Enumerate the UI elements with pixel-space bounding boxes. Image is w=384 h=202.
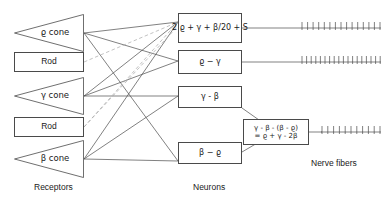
- neuron-box-2[interactable]: ϱ − γ: [178, 50, 242, 74]
- line-rho-to-n2: [84, 33, 178, 61]
- neuron-box-3[interactable]: γ - β: [178, 86, 242, 108]
- receptor-rho-cone[interactable]: ϱ cone: [14, 14, 84, 52]
- retina-neural-wiring-diagram: ϱ cone Rod γ cone Rod β cone 2 ϱ + γ + β…: [0, 0, 384, 202]
- neuron-formula-line2: = ϱ + γ - 2β: [255, 132, 298, 140]
- receptor-label: β cone: [41, 154, 70, 164]
- column-label-receptors: Receptors: [34, 182, 73, 192]
- neuron-box-5[interactable]: β − ϱ: [178, 142, 242, 164]
- fiber-bundle-1: [300, 22, 381, 30]
- neuron-formula: ϱ − γ: [199, 57, 221, 66]
- receptor-gamma-cone[interactable]: γ cone: [14, 77, 84, 115]
- receptor-label: Rod: [41, 57, 57, 67]
- dashed-rod-connections: [84, 22, 178, 127]
- receptor-rod-lower[interactable]: Rod: [14, 117, 84, 137]
- receptor-label: ϱ cone: [41, 28, 70, 38]
- column-label-nerve-fibers: Nerve fibers: [311, 158, 357, 168]
- fiber-bundle-2: [300, 56, 381, 64]
- line-rho-to-n1: [84, 22, 178, 33]
- neuron-formula-line1: γ - β - (β - ϱ): [254, 124, 298, 132]
- neuron-box-1[interactable]: 2 ϱ + γ + β/20 + S: [178, 13, 242, 43]
- nerve-fiber-ticks: [300, 22, 381, 134]
- receptor-beta-cone[interactable]: β cone: [14, 140, 84, 178]
- neuron-formula: γ - β - (β - ϱ) = ϱ + γ - 2β: [254, 124, 298, 140]
- neuron-box-4[interactable]: γ - β - (β - ϱ) = ϱ + γ - 2β: [243, 119, 309, 145]
- neuron-formula: β − ϱ: [199, 148, 221, 157]
- line-rod2-to-n1-b: [84, 26, 178, 127]
- line-gamma-to-n1: [84, 22, 178, 96]
- neuron-formula: γ - β: [201, 92, 219, 101]
- receptor-label: Rod: [41, 122, 57, 132]
- receptor-rod-upper[interactable]: Rod: [14, 52, 84, 72]
- line-rod2-to-n1: [84, 22, 178, 127]
- fiber-bundle-4: [321, 126, 381, 134]
- line-beta-to-n5: [84, 159, 178, 161]
- line-rho-to-n5: [84, 33, 178, 161]
- neuron-formula: 2 ϱ + γ + β/20 + S: [172, 23, 248, 32]
- line-beta-to-n3: [84, 96, 178, 159]
- receptor-label: γ cone: [41, 91, 69, 101]
- column-label-neurons: Neurons: [193, 182, 225, 192]
